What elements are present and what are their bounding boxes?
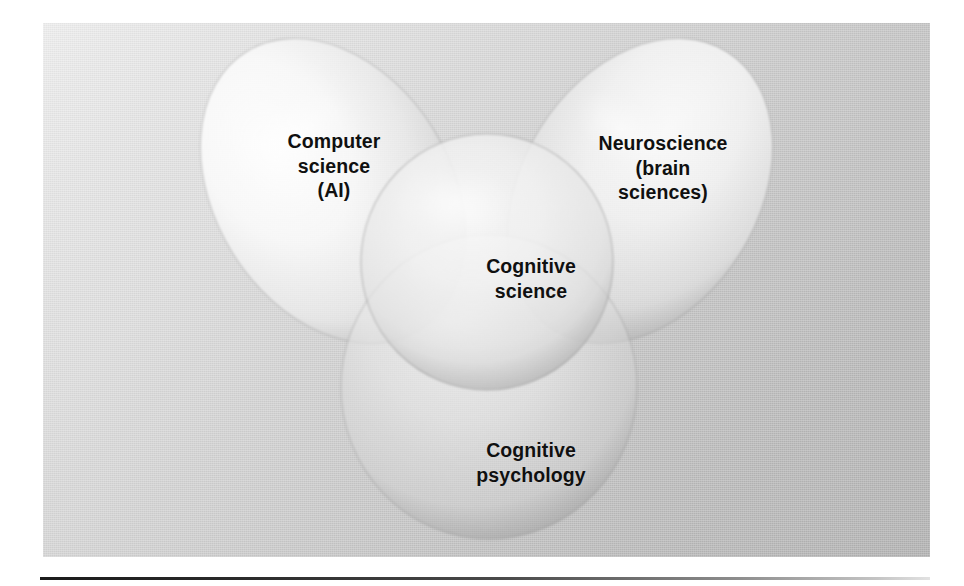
label-computer-science: Computer science (AI) xyxy=(239,129,429,203)
label-neuroscience: Neuroscience (brain sciences) xyxy=(563,131,763,205)
figure-root: Computer science (AI) Neuroscience (brai… xyxy=(0,0,964,586)
label-cognitive-psychology: Cognitive psychology xyxy=(407,438,655,487)
horizontal-rule xyxy=(40,577,930,580)
label-cognitive-science: Cognitive science xyxy=(421,254,641,303)
diagram-panel: Computer science (AI) Neuroscience (brai… xyxy=(43,23,930,557)
